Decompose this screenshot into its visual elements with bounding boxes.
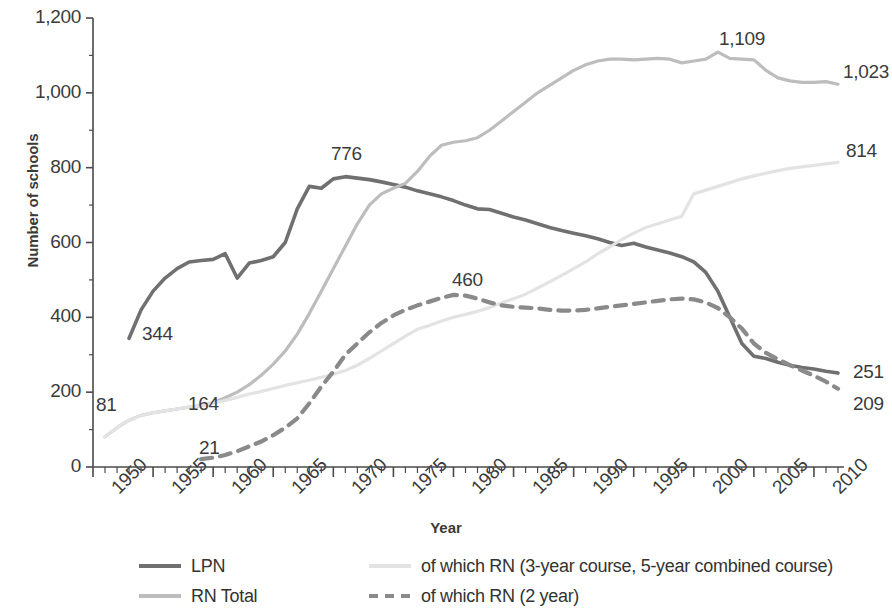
data-label: 209 — [853, 393, 884, 415]
legend-item[interactable]: RN Total — [138, 582, 257, 610]
legend-swatch-icon — [138, 589, 182, 603]
data-label: 814 — [846, 140, 877, 162]
legend-label: RN Total — [191, 586, 257, 607]
chart-legend: LPNRN Totalof which RN (3-year course, 5… — [138, 552, 892, 612]
data-label: 251 — [853, 361, 884, 383]
data-label: 164 — [188, 393, 219, 415]
y-axis-ticks — [86, 18, 93, 467]
legend-item[interactable]: of which RN (3-year course, 5-year combi… — [368, 552, 833, 580]
legend-label: LPN — [191, 556, 225, 577]
data-label: 460 — [452, 269, 483, 291]
x-axis-title: Year — [0, 519, 892, 536]
data-label: 21 — [199, 437, 220, 459]
legend-swatch-icon — [138, 559, 182, 573]
series-line-0 — [129, 177, 838, 373]
legend-item[interactable]: LPN — [138, 552, 225, 580]
legend-swatch-icon — [368, 559, 412, 573]
data-label: 1,023 — [843, 61, 889, 83]
legend-swatch-icon — [368, 589, 412, 603]
legend-item[interactable]: of which RN (2 year) — [368, 582, 579, 610]
data-label: 1,109 — [719, 28, 765, 50]
data-label: 81 — [96, 394, 117, 416]
data-label: 344 — [142, 323, 173, 345]
series-line-3 — [201, 295, 838, 459]
series-line-1 — [105, 52, 838, 437]
data-label: 776 — [331, 143, 362, 165]
chart-container: Number of schools 02004006008001,0001,20… — [0, 0, 892, 612]
legend-label: of which RN (2 year) — [421, 586, 579, 607]
x-axis-ticks — [93, 467, 838, 477]
legend-label: of which RN (3-year course, 5-year combi… — [421, 556, 833, 577]
